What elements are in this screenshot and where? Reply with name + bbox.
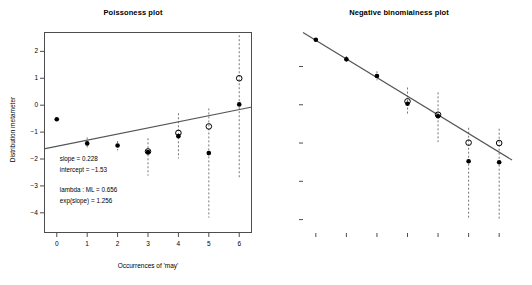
plot-annotation: slope = 0.228	[60, 155, 98, 162]
y-axis-tick-label: −2	[10, 155, 38, 162]
x-axis-tick-label: 1	[78, 240, 96, 247]
y-axis-tick-label: −1	[10, 128, 38, 135]
plot-graphics	[0, 0, 266, 285]
plot-annotation: intercept = −1.53	[60, 166, 107, 173]
plot-graphics	[266, 0, 532, 285]
y-axis-tick-label: 0	[10, 101, 38, 108]
y-axis-tick-label: −3	[10, 182, 38, 189]
x-axis-tick-label: 6	[230, 240, 248, 247]
y-axis-tick-label: 1	[10, 74, 38, 81]
x-axis-tick-label: 2	[109, 240, 127, 247]
figure-canvas: Poissoness plot Distribution metameter O…	[0, 0, 532, 285]
plot-annotation: exp(slope) = 1.256	[60, 197, 112, 204]
y-axis-tick-label: 2	[10, 47, 38, 54]
x-axis-tick-label: 3	[139, 240, 157, 247]
panel-negative-binomialness: Negative binomialness plot Distribution …	[266, 0, 532, 285]
plot-annotation: lambda : ML = 0.656	[60, 186, 117, 193]
panel-poissonness: Poissoness plot Distribution metameter O…	[0, 0, 266, 285]
y-axis-tick-label: −4	[10, 209, 38, 216]
x-axis-tick-label: 5	[200, 240, 218, 247]
x-axis-tick-label: 0	[48, 240, 66, 247]
x-axis-tick-label: 4	[169, 240, 187, 247]
